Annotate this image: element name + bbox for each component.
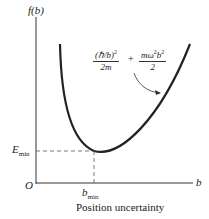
origin-label: O (25, 179, 33, 191)
arrow-line (134, 73, 160, 93)
formula-term1: (ℏ/b)2 2m (93, 47, 119, 73)
y-axis-label: f(b) (28, 4, 44, 16)
x-axis-title: Position uncertainty (76, 201, 164, 213)
e-min-label: Emin (12, 143, 30, 155)
formula-term2: mω2b2 2 (139, 47, 166, 73)
formula-plus: + (128, 53, 134, 64)
arrowhead-icon (155, 90, 161, 95)
b-min-label: bmin (82, 186, 98, 198)
x-axis-variable: b (196, 176, 202, 188)
energy-curve (60, 44, 190, 152)
